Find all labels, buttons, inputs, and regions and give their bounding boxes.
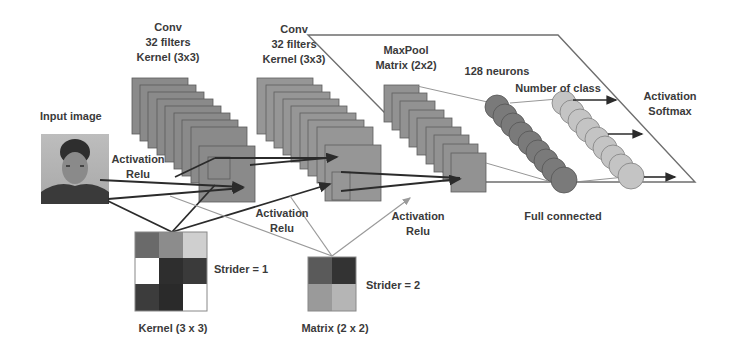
kernel-cell [135,232,159,258]
input-image-label: Input image [40,109,120,124]
matrix-strider-label: Strider = 2 [366,278,426,293]
conv1-feature-maps [132,78,255,202]
conv2-feature-maps [257,78,381,201]
kernel-cell [135,284,159,311]
matrix-label: Matrix (2 x 2) [290,321,380,336]
kernel-cell [159,284,183,311]
dense-neurons-label: 128 neurons [452,64,542,79]
matrix-cell [332,284,356,311]
kernel-cell [183,258,207,284]
kernel-cell [159,258,183,284]
kernel-strider-label: Strider = 1 [214,262,274,277]
matrix-cell [308,257,332,284]
kernel-cell [183,284,207,311]
kernel-label: Kernel (3 x 3) [128,321,218,336]
conv1-label: Conv 32 filters Kernel (3x3) [118,20,218,65]
conv2-activation-label: Activation Relu [250,206,314,236]
maxpool-activation-label: Activation Relu [386,209,450,239]
pool-matrix-2x2-grid [308,257,356,311]
conv1-activation-label: Activation Relu [108,152,168,182]
input-image [41,134,109,204]
kernel-cell [183,232,207,258]
kernel-3x3-grid [135,232,207,311]
kernel-cell [159,232,183,258]
kernel-cell [135,258,159,284]
maxpool-label: MaxPool Matrix (2x2) [366,43,446,73]
matrix-cell [332,257,356,284]
full-connected-label: Full connected [508,209,618,224]
conv2-label: Conv 32 filters Kernel (3x3) [244,22,344,67]
softmax-activation-label: Activation Softmax [632,89,708,119]
output-classes-label: Number of class [508,81,608,96]
matrix-cell [308,284,332,311]
